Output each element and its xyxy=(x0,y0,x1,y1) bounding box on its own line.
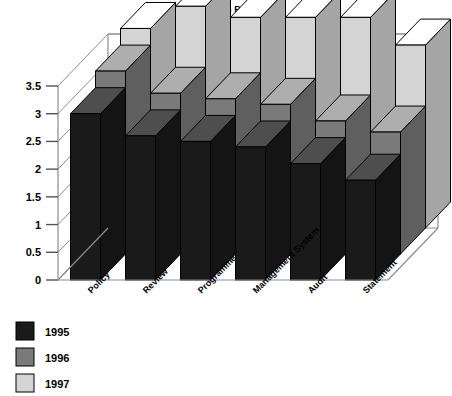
bar-front-face xyxy=(181,141,211,280)
bar-front-face xyxy=(346,180,376,280)
legend-label-1996: 1996 xyxy=(45,352,69,364)
y-axis-tick-label: 3.5 xyxy=(26,80,41,92)
bar-side-face xyxy=(156,110,181,280)
legend-swatch-1995 xyxy=(16,322,34,340)
legend-swatch-1996 xyxy=(16,348,34,366)
bars-layer xyxy=(71,0,451,280)
bar-1995-1 xyxy=(126,110,181,280)
y-axis-tick-label: 1 xyxy=(35,219,41,231)
bar-front-face xyxy=(291,164,321,280)
chart-container: LA-EMAS Profile 1995–1996–1997 00.511.52… xyxy=(0,0,452,396)
bar-1995-4 xyxy=(291,138,346,280)
bar-1995-2 xyxy=(181,115,236,280)
legend-swatch-1997 xyxy=(16,374,34,392)
bar-front-face xyxy=(236,147,266,280)
y-axis-tick-label: 2 xyxy=(35,163,41,175)
y-axis-tick-label: 1.5 xyxy=(26,191,41,203)
legend-label-1997: 1997 xyxy=(45,378,69,390)
bar-front-face xyxy=(126,136,156,280)
y-axis-tick-label: 3 xyxy=(35,108,41,120)
bar-side-face xyxy=(426,19,451,228)
bar-1995-0 xyxy=(71,88,126,280)
y-axis-tick-label: 2.5 xyxy=(26,135,41,147)
legend-label-1995: 1995 xyxy=(45,326,69,338)
bar-front-face xyxy=(71,114,101,280)
y-axis-tick-label: 0 xyxy=(35,274,41,286)
bar-chart-3d: LA-EMAS Profile 1995–1996–1997 00.511.52… xyxy=(0,0,452,396)
bar-side-face xyxy=(101,88,126,280)
y-axis-tick-label: 0.5 xyxy=(26,246,41,258)
